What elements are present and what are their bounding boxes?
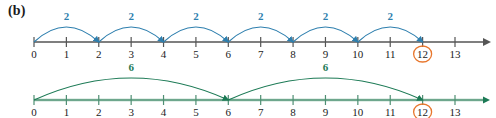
tick-label-13: 13 [450,106,462,118]
jump-label-6-to-12: 6 [323,61,329,73]
tick-label-13: 13 [450,48,462,60]
tick-label-8: 8 [290,48,296,60]
jump-label-0-to-6: 6 [128,61,134,73]
top-tick-labels: 012345678910111213 [31,48,461,60]
tick-label-3: 3 [128,106,134,118]
tick-label-10: 10 [352,106,364,118]
tick-label-10: 10 [352,48,364,60]
tick-label-2: 2 [96,106,102,118]
jump-label-6-to-8: 2 [258,10,264,22]
bottom-jump-labels: 66 [128,61,328,73]
jump-label-2-to-4: 2 [128,10,134,22]
jump-label-10-to-12: 2 [387,10,393,22]
tick-label-3: 3 [128,48,134,60]
jump-label-0-to-2: 2 [64,10,70,22]
tick-label-0: 0 [31,48,37,60]
tick-label-7: 7 [258,48,264,60]
jump-label-8-to-10: 2 [323,10,329,22]
tick-label-6: 6 [226,48,232,60]
tick-label-7: 7 [258,106,264,118]
number-line-figure: (b) 012345678910111213 222222 [0,0,496,118]
top-number-line: 012345678910111213 222222 [31,10,484,62]
tick-label-11: 11 [385,106,396,118]
tick-label-12: 12 [417,48,428,60]
tick-label-5: 5 [193,106,199,118]
tick-label-8: 8 [290,106,296,118]
tick-label-2: 2 [96,48,102,60]
tick-label-12: 12 [417,106,428,118]
number-line-canvas: 012345678910111213 222222 01234567891011… [0,0,496,118]
tick-label-1: 1 [64,48,70,60]
tick-label-9: 9 [323,48,329,60]
bottom-tick-labels: 012345678910111213 [31,106,461,118]
jump-label-4-to-6: 2 [193,10,199,22]
tick-label-5: 5 [193,48,199,60]
tick-label-11: 11 [385,48,396,60]
tick-label-4: 4 [161,48,167,60]
tick-label-1: 1 [64,106,70,118]
top-jump-labels: 222222 [64,10,394,22]
tick-label-9: 9 [323,106,329,118]
bottom-number-line: 012345678910111213 66 [31,61,484,118]
tick-label-0: 0 [31,106,37,118]
tick-label-4: 4 [161,106,167,118]
tick-label-6: 6 [226,106,232,118]
